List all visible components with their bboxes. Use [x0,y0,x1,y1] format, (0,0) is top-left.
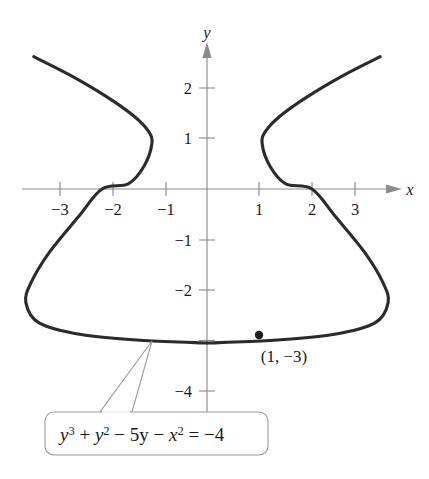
marked-point-label: (1, −3) [261,347,307,366]
curve-branch-right [207,57,388,343]
equation-minus-five-y: − 5y − [110,424,169,445]
x-axis-arrow-icon [386,184,402,193]
x-axis-tick-labels: −3−2−1123 [51,200,359,219]
x-tick-label: −3 [51,200,69,219]
x-tick-label: 1 [255,200,263,219]
y-tick-label: 2 [184,79,192,98]
equation-y1: y [58,424,69,445]
x-axis-label: x [405,180,414,199]
x-tick-label: −1 [157,200,175,219]
axes-group [22,42,402,445]
y-axis-arrow-icon [202,42,211,58]
y-tick-label: −1 [174,231,192,250]
equation-plus: + [75,424,95,445]
plot-canvas: −3−2−1123 21−1−2−4 x y (1, −3) y3 + y2 −… [0,0,429,479]
marked-point-dot [255,331,263,339]
x-tick-label: −2 [104,200,122,219]
x-tick-label: 3 [351,200,359,219]
x-tick-label: 2 [308,200,316,219]
y-tick-label: −4 [174,382,192,401]
equation-callout: y3 + y2 − 5y − x2 = −4 [45,341,268,455]
callout-tail [100,341,152,412]
y-tick-label: 1 [184,129,192,148]
implicit-curve-figure: −3−2−1123 21−1−2−4 x y (1, −3) y3 + y2 −… [0,0,429,479]
y-axis-tick-labels: 21−1−2−4 [174,79,192,401]
equation-label: y3 + y2 − 5y − x2 = −4 [58,424,225,445]
y-axis-label: y [201,23,211,42]
y-tick-label: −2 [174,281,192,300]
equation-y2: y [93,424,104,445]
equation-equals: = −4 [184,424,225,445]
